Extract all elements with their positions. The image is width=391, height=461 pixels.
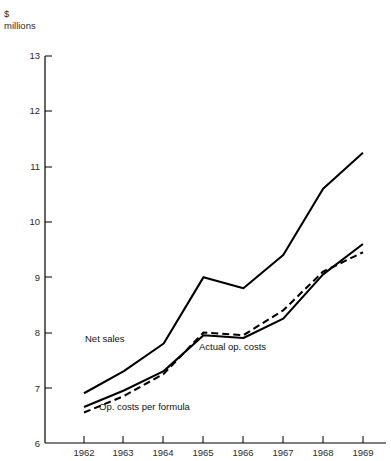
axes <box>45 56 386 443</box>
series-annotation-op-costs-per-formula: Op. costs per formula <box>99 401 190 412</box>
line-chart: $ millions 13 12 11 10 9 8 7 6 1962 1963… <box>0 0 391 461</box>
series-annotation-actual-op-costs: Actual op. costs <box>199 341 266 352</box>
chart-canvas <box>0 0 391 461</box>
x-axis-ticks <box>84 436 363 443</box>
series-annotation-net-sales: Net sales <box>85 333 125 344</box>
series-line-actual-op-costs <box>84 244 363 407</box>
y-axis-ticks <box>45 56 52 388</box>
